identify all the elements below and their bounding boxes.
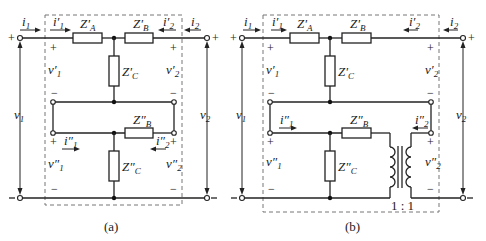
- impedance-ZA-prime: [73, 33, 102, 43]
- svg-text:−: −: [170, 86, 177, 100]
- svg-text:v″2: v″2: [166, 156, 182, 173]
- svg-text:Z″C: Z″C: [338, 159, 358, 176]
- terminal-2-top: [205, 36, 210, 41]
- terminal-1-bottom: [18, 196, 23, 201]
- impedance-ZB-double-prime-b: [342, 128, 371, 138]
- svg-text:i2: i2: [191, 14, 200, 31]
- impedance-ZA-prime-b: [290, 33, 319, 43]
- svg-text:i′2: i′2: [163, 14, 174, 31]
- svg-text:v′2: v′2: [425, 62, 439, 79]
- impedance-ZB-double-prime: [125, 128, 153, 138]
- svg-text:Z′A: Z′A: [297, 16, 313, 33]
- svg-text:Z″B: Z″B: [133, 112, 152, 129]
- svg-text:+: +: [468, 31, 475, 45]
- svg-text:Z″C: Z″C: [122, 159, 142, 176]
- svg-text:+: +: [50, 41, 57, 55]
- svg-text:−: −: [427, 182, 434, 196]
- panel-a: i1 i′1 Z′A Z′B i′2 i2 Z′C v′1 v′2 v1 v2 …: [8, 14, 219, 234]
- svg-text:+: +: [170, 135, 177, 149]
- svg-text:Z′C: Z′C: [122, 64, 139, 81]
- svg-text:v′1: v′1: [266, 62, 279, 79]
- impedance-ZB-prime-b: [342, 33, 371, 43]
- svg-text:i1: i1: [22, 14, 30, 31]
- svg-text:i″1: i″1: [280, 112, 294, 129]
- svg-text:+: +: [427, 41, 434, 55]
- svg-text:v1: v1: [236, 107, 246, 124]
- impedance-ZB-prime: [125, 33, 153, 43]
- svg-text:+: +: [170, 41, 177, 55]
- svg-text:Z′B: Z′B: [133, 16, 149, 33]
- svg-text:v′1: v′1: [48, 62, 61, 79]
- svg-text:+: +: [8, 31, 15, 45]
- svg-text:−: −: [268, 182, 275, 196]
- svg-text:i′1: i′1: [53, 14, 64, 31]
- svg-text:−: −: [51, 86, 58, 100]
- terminal-2-bottom: [205, 196, 210, 201]
- turns-ratio: 1 : 1: [391, 198, 414, 213]
- svg-text:+: +: [267, 135, 274, 149]
- impedance-ZC-prime-b: [325, 56, 335, 86]
- svg-text:i2: i2: [450, 14, 459, 31]
- svg-text:+: +: [50, 135, 57, 149]
- svg-text:v2: v2: [456, 107, 467, 124]
- svg-text:−: −: [51, 182, 58, 196]
- svg-text:v″1: v″1: [48, 156, 64, 173]
- impedance-ZC-double-prime-b: [325, 151, 335, 181]
- svg-text:i′2: i′2: [409, 14, 420, 31]
- impedance-ZC-prime: [109, 56, 119, 86]
- svg-text:i″2: i″2: [415, 112, 429, 129]
- svg-text:Z″B: Z″B: [350, 112, 369, 129]
- svg-text:v′2: v′2: [166, 62, 180, 79]
- caption-a: (a): [104, 219, 118, 234]
- svg-text:v2: v2: [200, 107, 211, 124]
- svg-text:+: +: [230, 31, 237, 45]
- svg-text:+: +: [212, 31, 219, 45]
- svg-text:Z′B: Z′B: [350, 16, 366, 33]
- panel-b: i1 i′1 Z′A Z′B i′2 i2 Z′C v′1 v′2 v1 v2 …: [230, 14, 475, 234]
- svg-text:−: −: [170, 182, 177, 196]
- svg-text:i″1: i″1: [64, 133, 78, 150]
- svg-text:i1: i1: [244, 14, 252, 31]
- svg-text:−: −: [268, 86, 275, 100]
- two-port-circuit-diagram: i1 i′1 Z′A Z′B i′2 i2 Z′C v′1 v′2 v1 v2 …: [0, 0, 486, 241]
- svg-text:−: −: [427, 86, 434, 100]
- svg-text:+: +: [267, 41, 274, 55]
- svg-text:v1: v1: [14, 107, 24, 124]
- svg-text:i′1: i′1: [272, 14, 283, 31]
- svg-text:i″2: i″2: [156, 133, 170, 150]
- svg-text:v″1: v″1: [266, 154, 282, 171]
- svg-text:Z′A: Z′A: [80, 16, 96, 33]
- caption-b: (b): [345, 219, 360, 234]
- terminal-1-top: [18, 36, 23, 41]
- svg-text:+: +: [427, 135, 434, 149]
- svg-text:Z′C: Z′C: [338, 64, 355, 81]
- impedance-ZC-double-prime: [109, 151, 119, 181]
